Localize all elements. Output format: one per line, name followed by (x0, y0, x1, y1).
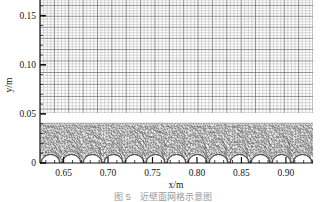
y-tick-label: 0.10 (19, 60, 36, 70)
mesh-figure: 0.650.700.750.800.850.90 00.050.100.15 x… (0, 0, 321, 202)
y-tick-label: 0 (31, 158, 36, 168)
x-tick-label: 0.75 (144, 168, 161, 178)
x-tick-label: 0.90 (278, 168, 295, 178)
mesh-plot-svg: 0.650.700.750.800.850.90 00.050.100.15 x… (0, 0, 321, 202)
y-axis-title: y/m (4, 77, 14, 92)
y-tick-label: 0.05 (19, 109, 36, 119)
x-axis-title: x/m (169, 180, 184, 190)
x-tick-label: 0.65 (55, 168, 72, 178)
x-tick-label: 0.80 (189, 168, 206, 178)
x-tick-label: 0.85 (233, 168, 250, 178)
y-tick-label: 0.15 (19, 11, 36, 21)
x-tick-label: 0.70 (100, 168, 117, 178)
figure-caption: 图 5 近壁面网格示意图 (114, 191, 212, 202)
